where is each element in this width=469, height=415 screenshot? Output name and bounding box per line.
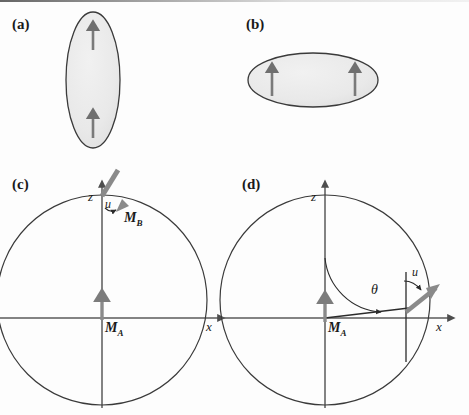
theta-label-d: θ — [371, 282, 378, 298]
u-label-d: u — [412, 265, 418, 280]
magnetization-label-MA-c-subscript: A — [117, 328, 123, 338]
x-axis-label-d: x — [436, 319, 442, 335]
magnetization-label-MB: MB — [124, 210, 142, 228]
panel-a-graphic — [66, 12, 120, 148]
magnetization-label-MA-c: MA — [105, 320, 123, 338]
z-axis-label-c: z — [88, 189, 93, 205]
magnetization-label-MA-d-symbol: M — [328, 320, 340, 335]
magnetization-label-MB-subscript: B — [136, 218, 142, 228]
z-axis-label-d: z — [311, 189, 316, 205]
figure-container: (a) (b) (c) (d) z x u MB MA z x u θ MA — [0, 0, 469, 415]
u-label-c: u — [105, 197, 111, 212]
panel-c-graphic — [0, 170, 222, 408]
panel-label-d: (d) — [242, 176, 260, 193]
panel-label-c: (c) — [12, 176, 29, 193]
panel-label-a: (a) — [12, 16, 30, 33]
x-axis-label-c: x — [206, 319, 212, 335]
panel-label-b: (b) — [246, 16, 264, 33]
magnetization-label-MA-d: MA — [328, 320, 346, 338]
figure-svg — [0, 0, 469, 415]
panel-b-graphic — [248, 53, 378, 107]
magnetization-label-MA-c-symbol: M — [105, 320, 117, 335]
particle-ellipse-b — [248, 53, 378, 107]
magnetization-vector-MB — [102, 170, 118, 196]
magnetization-label-MA-d-subscript: A — [340, 328, 346, 338]
panel-d-graphic — [220, 183, 452, 408]
magnetization-label-MB-symbol: M — [124, 210, 136, 225]
